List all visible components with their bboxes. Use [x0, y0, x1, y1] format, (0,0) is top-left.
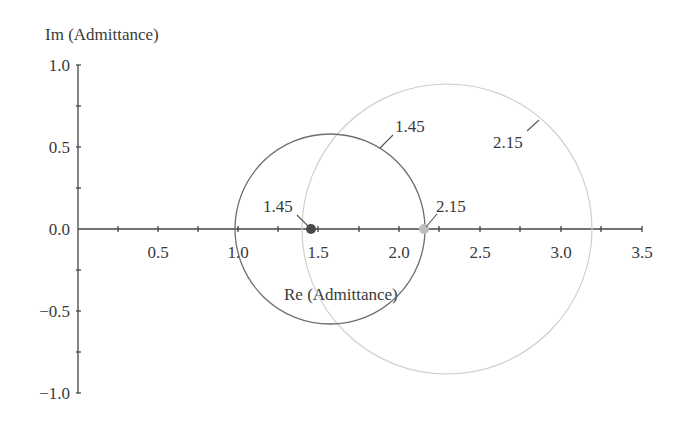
point-label-2-15: 2.15 — [436, 197, 466, 216]
y-tick-label: −1.0 — [39, 384, 70, 403]
x-tick-label: 0.5 — [147, 243, 168, 262]
x-tick-label: 3.0 — [550, 243, 571, 262]
x-tick-label: 1.5 — [307, 243, 328, 262]
y-tick-label: −0.5 — [39, 302, 70, 321]
x-tick-label: 2.0 — [388, 243, 409, 262]
y-axis-title: Im (Admittance) — [45, 25, 159, 44]
admittance-chart: 1.0 0.5 0.0 −0.5 −1.0 0.5 1.0 1.5 2.0 2.… — [0, 0, 690, 424]
y-tick-label: 1.0 — [49, 56, 70, 75]
circle-label-2-15: 2.15 — [493, 133, 523, 152]
circle-label-1-45: 1.45 — [395, 117, 425, 136]
point-label-1-45: 1.45 — [263, 197, 293, 216]
y-tick-label: 0.0 — [49, 220, 70, 239]
x-tick-label: 3.5 — [631, 243, 652, 262]
x-tick-label: 2.5 — [469, 243, 490, 262]
y-tick-label: 0.5 — [49, 138, 70, 157]
x-axis-title: Re (Admittance) — [284, 285, 398, 304]
x-axis — [78, 226, 642, 232]
